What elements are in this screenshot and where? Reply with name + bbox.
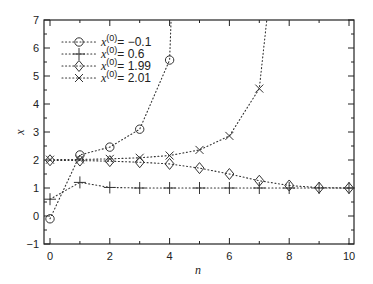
- legend: x(0)= −0.1x(0)= 0.6x(0)= 1.99x(0)= 2.01: [62, 33, 152, 85]
- x-axis-label: n: [195, 263, 201, 277]
- plus-marker-icon: [44, 193, 56, 205]
- y-tick-label: 6: [33, 42, 39, 54]
- y-tick-label: 2: [33, 154, 39, 166]
- x-tick-label: 0: [47, 250, 53, 262]
- y-tick-label: 0: [33, 210, 39, 222]
- legend-item: x(0)= 2.01: [62, 69, 151, 85]
- circle-marker-icon: [165, 56, 173, 64]
- plus-marker-icon: [283, 182, 295, 194]
- x-tick-label: 2: [107, 250, 113, 262]
- series-markers: [44, 56, 355, 223]
- y-tick-label: −1: [26, 238, 39, 250]
- y-tick-label: 1: [33, 182, 39, 194]
- plus-marker-icon: [104, 181, 116, 193]
- y-tick-label: 3: [33, 126, 39, 138]
- y-tick-label: 5: [33, 70, 39, 82]
- plus-marker-icon: [73, 48, 85, 60]
- plus-marker-icon: [253, 182, 265, 194]
- plus-marker-icon: [74, 176, 86, 188]
- plus-marker-icon: [164, 182, 176, 194]
- cross-marker-icon: [196, 146, 204, 154]
- chart: 0246810−101234567 n x x(0)= −0.1x(0)= 0.…: [0, 0, 373, 284]
- plus-marker-icon: [134, 182, 146, 194]
- y-axis-label: x: [13, 129, 27, 136]
- y-tick-label: 7: [33, 14, 39, 26]
- x-tick-label: 10: [343, 250, 355, 262]
- x-tick-label: 4: [167, 250, 173, 262]
- legend-label: x(0)= 2.01: [100, 69, 151, 85]
- x-tick-label: 6: [226, 250, 232, 262]
- tick-labels: 0246810−101234567: [26, 14, 355, 262]
- cross-marker-icon: [225, 132, 233, 140]
- diamond-marker-icon: [105, 156, 114, 167]
- plus-marker-icon: [194, 182, 206, 194]
- plus-marker-icon: [223, 182, 235, 194]
- x-tick-label: 8: [286, 250, 292, 262]
- series-line-cross: [50, 20, 267, 160]
- y-tick-label: 4: [33, 98, 39, 110]
- diamond-marker-icon: [195, 163, 204, 174]
